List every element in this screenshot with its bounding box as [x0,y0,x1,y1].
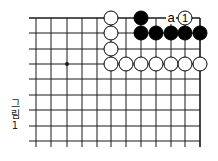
go-board-diagram: 1 a [0,0,218,161]
white-stone [149,57,163,71]
black-stone [193,26,207,40]
black-stone [134,11,148,25]
white-stone [104,57,118,71]
white-stone [164,57,178,71]
white-stone [134,57,148,71]
star-points [65,62,69,66]
caption-line-3: 1 [8,120,22,131]
markers: a [166,10,176,25]
caption-line-2: 림 [8,109,22,120]
svg-text:a: a [167,10,175,25]
caption-line-1: 그 [8,98,22,109]
white-stone: 1 [178,11,192,25]
white-stone [104,26,118,40]
white-stone [178,57,192,71]
star-point [65,62,69,66]
black-stone [134,26,148,40]
move-number-label: 1 [182,12,188,24]
white-stone [119,57,133,71]
white-stone [104,11,118,25]
point-label-marker: a [166,10,176,25]
black-stone [164,26,178,40]
figure-caption: 그 림 1 [8,98,22,131]
black-stone [178,26,192,40]
white-stone [104,42,118,56]
black-stone [149,26,163,40]
white-stone [193,57,207,71]
